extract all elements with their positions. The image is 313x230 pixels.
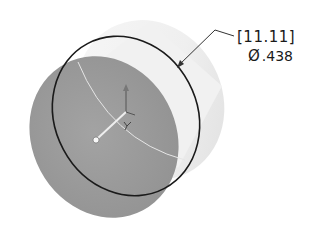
diameter-symbol-icon: Ø [248,47,260,65]
dimension-primary-label[interactable]: [11.11] [237,28,295,46]
dimension-secondary-label[interactable]: Ø.438 [248,47,293,65]
dimension-secondary-value: .438 [262,48,293,64]
cad-viewport: [11.11] Ø.438 [0,0,313,230]
